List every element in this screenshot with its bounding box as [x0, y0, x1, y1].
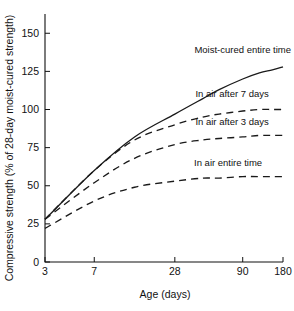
x-axis-title: Age (days)	[140, 288, 191, 300]
curve-label-3: In air entire time	[194, 157, 262, 168]
curve-in-air-after-3-days	[45, 135, 283, 219]
curve-label-0: Moist-cured entire time	[194, 44, 291, 55]
x-tick-labels: 372890180	[42, 265, 292, 277]
curve-label-2: In air after 3 days	[195, 116, 269, 127]
y-tick-label: 25	[27, 217, 39, 229]
y-tick-label: 0	[33, 256, 39, 268]
y-tick-label: 125	[21, 65, 39, 77]
curve-annotations: Moist-cured entire timeIn air after 7 da…	[194, 44, 291, 168]
x-tick-label: 3	[42, 265, 48, 277]
compressive-strength-chart: 0255075100125150 372890180 Moist-cured e…	[0, 0, 294, 311]
y-tick-label: 75	[27, 141, 39, 153]
y-tick-label: 150	[21, 27, 39, 39]
x-tick-label: 180	[274, 265, 292, 277]
x-tick-label: 28	[169, 265, 181, 277]
y-tick-label: 100	[21, 103, 39, 115]
tick-marks	[45, 33, 283, 262]
y-tick-label: 50	[27, 179, 39, 191]
y-tick-labels: 0255075100125150	[21, 27, 39, 268]
chart-canvas: 0255075100125150 372890180 Moist-cured e…	[0, 0, 294, 311]
curve-label-1: In air after 7 days	[195, 88, 269, 99]
x-tick-label: 90	[237, 265, 249, 277]
x-tick-label: 7	[91, 265, 97, 277]
y-axis-title: Compressive strength (% of 28-day moist-…	[3, 15, 15, 282]
